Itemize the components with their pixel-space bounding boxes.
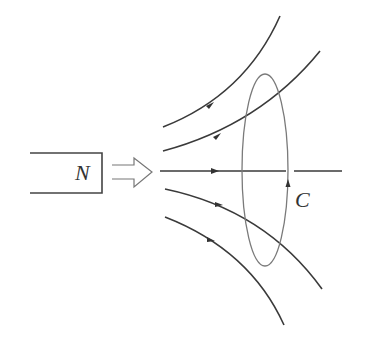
bar-magnet	[30, 153, 102, 193]
arrow-icon	[213, 133, 221, 140]
diagram-canvas	[0, 0, 367, 340]
motion-arrow-icon	[112, 158, 152, 187]
arrow-icon	[211, 168, 219, 174]
magnet-pole-label: N	[75, 162, 90, 184]
field-line-2	[163, 51, 320, 151]
field-lines	[160, 16, 342, 325]
field-arrow-icons	[206, 102, 223, 242]
loop-direction-arrow-icon	[286, 179, 291, 187]
loop-label: C	[295, 189, 310, 211]
field-line-1	[163, 16, 280, 127]
